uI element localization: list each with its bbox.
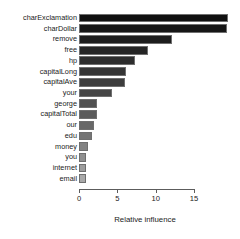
- bar-rect: [79, 110, 97, 119]
- bar-category-label: your: [63, 89, 77, 97]
- bar-category-label: capitalAve: [43, 78, 77, 86]
- bar-row: hp: [0, 55, 240, 66]
- bar-row: capitalLong: [0, 66, 240, 77]
- bar-row: charDollar: [0, 23, 240, 34]
- bar-row: george: [0, 98, 240, 109]
- x-tick: [194, 189, 195, 194]
- bar-row: edu: [0, 131, 240, 142]
- x-tick: [156, 189, 157, 194]
- x-axis-line: [79, 189, 194, 190]
- bar-rect: [79, 142, 88, 151]
- x-tick-label: 0: [77, 194, 81, 203]
- bar-category-label: our: [66, 121, 77, 129]
- x-tick: [79, 189, 80, 194]
- bar-row: free: [0, 45, 240, 56]
- bar-row: remove: [0, 34, 240, 45]
- bar-category-label: free: [64, 46, 77, 54]
- bar-rect: [79, 153, 86, 162]
- bar-category-label: edu: [65, 132, 77, 140]
- bar-row: email: [0, 173, 240, 184]
- bar-rect: [79, 99, 97, 108]
- bar-category-label: george: [54, 100, 77, 108]
- bar-category-label: remove: [53, 35, 77, 43]
- bar-category-label: email: [60, 175, 77, 183]
- bar-rect: [79, 174, 86, 183]
- bar-rect: [79, 132, 92, 141]
- bar-rect: [79, 89, 112, 98]
- bar-row: money: [0, 141, 240, 152]
- bar-rect: [79, 78, 125, 87]
- x-tick-label: 15: [190, 194, 198, 203]
- bar-rect: [79, 14, 228, 23]
- bar-rect: [79, 121, 94, 130]
- x-tick-label: 5: [115, 194, 119, 203]
- bar-category-label: money: [55, 143, 77, 151]
- bar-row: internet: [0, 163, 240, 174]
- bar-category-label: charDollar: [44, 25, 77, 33]
- bar-category-label: capitalTotal: [40, 110, 77, 118]
- bar-category-label: hp: [69, 57, 77, 65]
- bar-rect: [79, 35, 172, 44]
- x-axis-title-text: Relative influence: [114, 215, 176, 224]
- bar-rect: [79, 164, 86, 173]
- bar-row: you: [0, 152, 240, 163]
- relative-influence-bar-chart: charExclamationcharDollarremovefreehpcap…: [0, 0, 240, 239]
- bar-row: capitalAve: [0, 77, 240, 88]
- x-tick: [117, 189, 118, 194]
- bar-row: your: [0, 88, 240, 99]
- bar-row: capitalTotal: [0, 109, 240, 120]
- x-axis-title: Relative influence: [0, 215, 240, 224]
- bar-rect: [79, 24, 227, 33]
- bar-category-label: internet: [53, 164, 77, 172]
- bar-category-label: charExclamation: [23, 14, 77, 22]
- bar-category-label: you: [65, 153, 77, 161]
- bar-category-label: capitalLong: [40, 68, 77, 76]
- bar-rect: [79, 56, 135, 65]
- bar-rect: [79, 46, 148, 55]
- bar-row: our: [0, 120, 240, 131]
- bar-rect: [79, 67, 126, 76]
- x-tick-label: 10: [151, 194, 159, 203]
- bar-row: charExclamation: [0, 13, 240, 24]
